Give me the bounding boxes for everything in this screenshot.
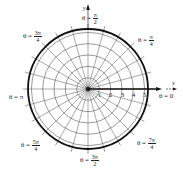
grid-spoke [36,89,88,119]
grid-spoke [30,89,88,105]
polar-axis-arrow-icon [156,87,162,91]
outer-tick [104,148,105,152]
outer-tick [71,26,72,30]
grid-spoke [72,31,88,89]
radial-tick-1: 1 [98,91,101,98]
outer-tick [104,26,105,30]
angle-label-3pi-over-2: θ = 3π2 [80,154,99,167]
grid-spoke [88,37,118,89]
grid-spoke [88,73,146,89]
outer-tick [141,57,144,59]
grid-spoke [88,59,140,89]
outer-tick [147,72,151,73]
outer-tick [119,142,121,145]
outer-tick [71,148,72,152]
outer-tick [25,72,29,73]
y-axis-arrow-icon [86,4,90,10]
x-axis-arrow-icon [173,88,177,91]
angle-label-7pi-over-4: θ = 7π4 [137,137,156,150]
angle-label-0: θ = 0 [159,93,173,100]
grid-spoke [88,47,130,89]
outer-tick [56,142,58,145]
outer-tick [147,105,151,106]
grid-spoke [46,89,88,131]
radial-tick-5: 5 [143,91,146,98]
outer-tick [25,105,29,106]
outer-tick [131,132,134,135]
outer-tick [119,33,121,36]
angle-label-pi: θ = π [9,94,23,101]
outer-tick [141,120,144,122]
outer-tick [42,43,45,46]
grid-spoke [36,59,88,89]
grid-spoke [88,31,104,89]
radial-tick-3: 3 [121,91,124,98]
angle-label-5pi-over-4: θ = 5π4 [21,139,40,152]
grid-spoke [30,73,88,89]
outer-tick [131,43,134,46]
grid-spoke [46,47,88,89]
outer-tick [42,132,45,135]
x-axis-label: x [172,80,175,86]
grid-spoke [58,37,88,89]
grid-spoke [88,89,146,105]
y-axis-label: y [83,5,86,11]
radial-tick-4: 4 [132,91,135,98]
outer-tick [56,33,58,36]
angle-label-pi-over-4: θ = π4 [138,34,154,47]
grid-spoke [58,89,88,141]
angle-label-pi-over-2: θ = π2 [82,12,98,25]
grid-spoke [72,89,88,147]
outer-tick [32,120,35,122]
radial-tick-2: 2 [109,91,112,98]
outer-tick [32,57,35,59]
angle-label-3pi-over-4: θ = 3π4 [23,30,42,43]
grid-spoke [88,89,118,141]
